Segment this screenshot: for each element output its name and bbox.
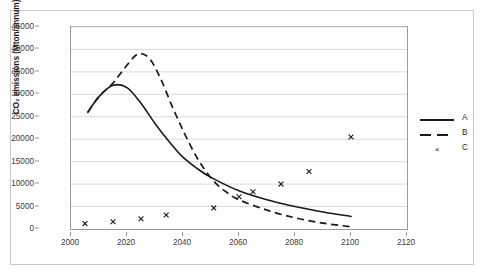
y-tick-label: 0 [29,224,34,233]
legend-item-a: A [420,112,472,127]
x-tick-label: 2120 [397,238,415,247]
legend-item-b: B [420,127,472,142]
y-tick-mark [35,93,39,94]
y-axis-ticklabels: 0500010000150002000025000300003500040000… [0,0,70,256]
y-tick-mark [35,228,39,229]
y-tick-label: 25000 [11,111,34,120]
x-tick-mark [350,232,351,236]
y-tick-mark [35,160,39,161]
y-tick-label: 20000 [11,134,34,143]
y-tick-label: 5000 [16,201,34,210]
plot-canvas [71,27,407,229]
y-tick-label: 40000 [11,44,34,53]
series-c-marker [139,216,144,221]
series-c-marker [164,213,169,218]
x-tick-mark [294,232,295,236]
chart-legend: A B × C [420,112,472,157]
gridlines [71,27,407,207]
x-axis-ticklabels: 2000202020402060208021002120 [70,232,409,254]
legend-label-a: A [462,113,467,122]
y-tick-label: 45000 [11,22,34,31]
y-tick-label: 30000 [11,89,34,98]
y-tick-mark [35,115,39,116]
legend-swatch-x-marker-icon: × [420,142,454,157]
series-c-marker [251,189,256,194]
chart-figure: CO₂ emissions (Mton/annum) 0500010000150… [0,0,488,279]
legend-swatch-dashed-line-icon [420,134,454,136]
y-tick-label: 35000 [11,66,34,75]
y-tick-mark [35,26,39,27]
y-tick-mark [35,183,39,184]
x-tick-label: 2000 [61,238,79,247]
y-tick-mark [35,205,39,206]
y-tick-label: 15000 [11,156,34,165]
y-tick-mark [35,138,39,139]
series-b-line [88,54,351,227]
x-tick-mark [406,232,407,236]
legend-label-b: B [462,128,467,137]
series-c-marker [111,219,116,224]
y-tick-label: 10000 [11,179,34,188]
y-tick-mark [35,48,39,49]
x-tick-mark [238,232,239,236]
legend-swatch-solid-line-icon [420,119,454,121]
series-a-line [88,85,351,217]
x-tick-label: 2040 [173,238,191,247]
plot-area [70,26,408,230]
x-tick-mark [126,232,127,236]
x-tick-mark [182,232,183,236]
series-c-marker [237,194,242,199]
series-c-marker [349,135,354,140]
x-tick-label: 2100 [341,238,359,247]
x-tick-label: 2080 [285,238,303,247]
legend-label-c: C [462,143,468,152]
y-tick-mark [35,70,39,71]
legend-item-c: × C [420,142,472,157]
series-c-marker [83,221,88,226]
x-tick-label: 2060 [229,238,247,247]
x-tick-label: 2020 [117,238,135,247]
series-c-marker [307,169,312,174]
x-tick-mark [70,232,71,236]
